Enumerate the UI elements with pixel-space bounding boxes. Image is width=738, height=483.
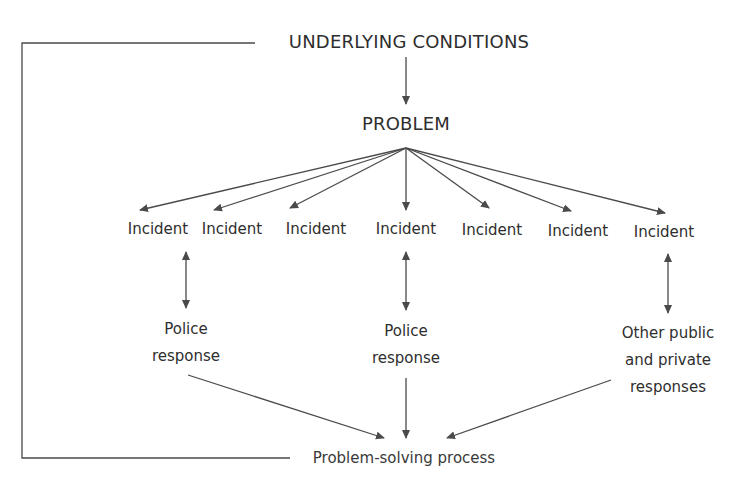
police-response-1-line-2: response [152, 343, 220, 370]
other-responses-line-2: and private [622, 347, 715, 374]
police-response-2: Police response [372, 318, 440, 372]
incident-label-3: Incident [286, 220, 346, 238]
underlying-conditions-label: UNDERLYING CONDITIONS [289, 31, 529, 53]
police-response-2-line-2: response [372, 345, 440, 372]
other-responses-line-3: responses [622, 374, 715, 401]
incident-response-arrows [186, 252, 668, 313]
incident-label-2: Incident [202, 220, 262, 238]
responses-to-process-arrows [188, 375, 611, 438]
police-response-2-line-1: Police [372, 318, 440, 345]
problem-label: PROBLEM [362, 113, 450, 135]
police-response-1-line-1: Police [152, 316, 220, 343]
incident-label-7: Incident [634, 223, 694, 241]
incident-label-1: Incident [128, 220, 188, 238]
incident-label-4: Incident [376, 220, 436, 238]
incident-label-6: Incident [548, 222, 608, 240]
problem-solving-process-label: Problem-solving process [313, 449, 495, 467]
other-responses: Other public and private responses [622, 320, 715, 401]
problem-to-incidents-arrows [140, 148, 665, 213]
other-responses-line-1: Other public [622, 320, 715, 347]
feedback-loop-line [22, 43, 290, 458]
police-response-1: Police response [152, 316, 220, 370]
incident-label-5: Incident [462, 221, 522, 239]
diagram-canvas [0, 0, 738, 483]
